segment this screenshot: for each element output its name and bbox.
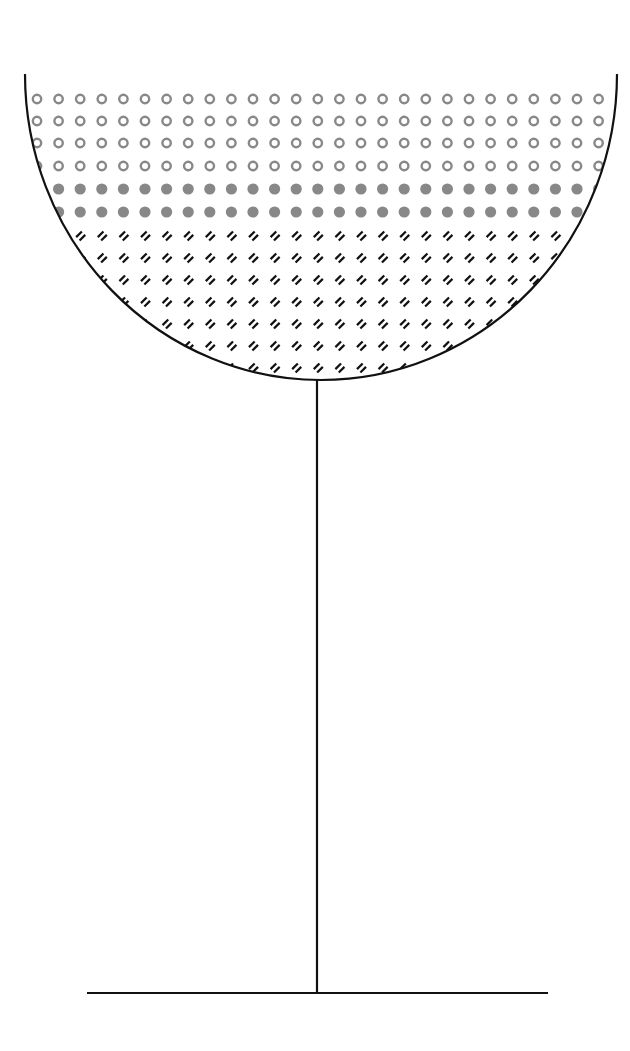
hatch-mark [508,363,517,372]
filled-dot [377,183,388,194]
filled-dot [528,183,539,194]
hatch-mark [249,319,258,328]
hatch-mark [357,319,366,328]
hatch-mark [249,231,258,240]
ring-dot [249,162,257,170]
ring-dot [184,117,192,125]
hatch-mark [163,297,172,306]
filled-dot [420,183,431,194]
ring-dot [400,117,408,125]
filled-dot [399,206,410,217]
hatch-mark [595,253,604,262]
ring-dot [54,117,62,125]
ring-dot [292,162,300,170]
ring-dot [508,139,516,147]
ring-dot [486,162,494,170]
ring-dot [357,117,365,125]
hatch-mark [422,363,431,372]
ring-dot [465,162,473,170]
hatch-mark [573,363,582,372]
ring-dot [594,139,602,147]
hatch-mark [271,363,280,372]
ring-dot [465,139,473,147]
hatch-mark [595,319,604,328]
hatch-mark [98,363,107,372]
hatch-mark [141,363,150,372]
ring-dot [119,139,127,147]
ring-dot [551,95,559,103]
hatch-mark [314,275,323,284]
hatch-mark [55,297,64,306]
hatch-mark [335,319,344,328]
hatch-mark [119,319,128,328]
hatch-mark [443,363,452,372]
filled-dot [247,183,258,194]
hatch-mark [141,275,150,284]
ring-dot [357,139,365,147]
filled-dot [75,206,86,217]
ring-dot [573,139,581,147]
hatch-mark [400,319,409,328]
ring-dot [292,117,300,125]
hatch-mark [422,253,431,262]
hatch-mark [508,341,517,350]
hatch-mark [76,231,85,240]
ring-dot [98,139,106,147]
hatch-mark [508,275,517,284]
hatch-mark [249,275,258,284]
ring-dot [551,162,559,170]
hatch-mark [573,297,582,306]
hatch-mark [551,341,560,350]
hatch-mark [487,275,496,284]
ring-dot [270,95,278,103]
filled-dot [247,206,258,217]
goblet-svg [0,0,630,1051]
hatch-mark [271,231,280,240]
hatch-mark [98,253,107,262]
ring-dot [530,162,538,170]
hatch-mark [443,319,452,328]
hatch-mark [163,231,172,240]
hatch-mark [184,231,193,240]
hatch-mark [335,231,344,240]
ring-dot [400,162,408,170]
hatch-mark [141,341,150,350]
hatch-mark [551,275,560,284]
ring-dots-layer [33,95,603,170]
hatch-mark [335,253,344,262]
hatch-mark [33,319,42,328]
ring-dot [76,139,84,147]
hatch-mark [573,319,582,328]
ring-dot [314,95,322,103]
hatch-mark [33,341,42,350]
hatch-mark [357,297,366,306]
hatch-mark [530,341,539,350]
hatch-mark [573,341,582,350]
filled-dot [399,183,410,194]
hatch-mark [76,341,85,350]
hatch-mark [487,231,496,240]
ring-dot [206,117,214,125]
ring-dot [162,139,170,147]
hatch-mark [98,231,107,240]
hatch-mark [400,253,409,262]
filled-dot [528,206,539,217]
hatch-mark [595,231,604,240]
hatch-mark [357,231,366,240]
ring-dot [141,139,149,147]
ring-dot [422,95,430,103]
ring-dot [378,162,386,170]
ring-dot [465,95,473,103]
hatch-mark [422,297,431,306]
hatch-mark [400,275,409,284]
hatch-mark [595,297,604,306]
hatch-mark [33,253,42,262]
ring-dot [551,117,559,125]
hatch-mark [573,253,582,262]
filled-dot [226,206,237,217]
hatch-mark [443,297,452,306]
hatch-mark [551,231,560,240]
hatch-mark [227,275,236,284]
ring-dot [54,95,62,103]
hatch-mark [422,275,431,284]
